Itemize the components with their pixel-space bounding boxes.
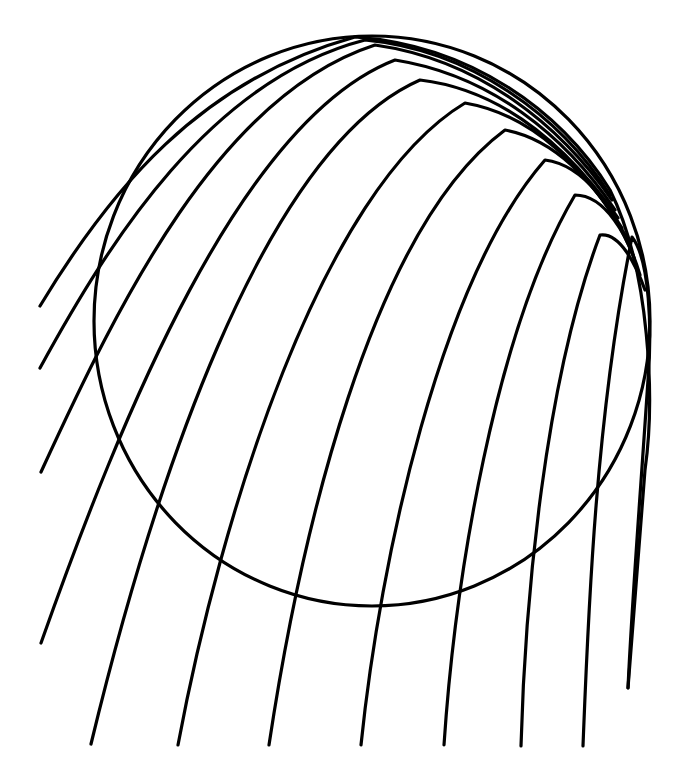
curves-over-circle-diagram	[0, 0, 680, 777]
line-drawing-figure	[0, 0, 680, 777]
